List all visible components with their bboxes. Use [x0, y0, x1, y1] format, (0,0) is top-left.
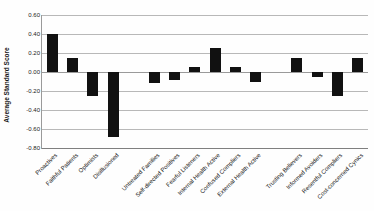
bar-informed-avoiders [312, 72, 323, 77]
x-tick-label: Informed Avoiders [285, 152, 323, 190]
y-tick-label: 0.20 [10, 50, 40, 56]
bar-trusting-believers [291, 58, 302, 72]
bar-proactives [47, 34, 58, 72]
gridline [42, 129, 368, 130]
y-tick-label: 0.60 [10, 12, 40, 18]
bar-optimists [87, 72, 98, 96]
bar-external-health-active [250, 72, 261, 82]
y-tick-label: -0.60 [10, 126, 40, 132]
bar-internal-health-active [210, 48, 221, 72]
gridline [42, 148, 368, 149]
y-tick-label: 0.40 [10, 31, 40, 37]
bar-confused-compliers [230, 67, 241, 72]
bar-resentful-compliers [332, 72, 343, 96]
y-tick-label: -0.80 [10, 145, 40, 151]
bar-fearful-listeners [189, 67, 200, 72]
bar-chart-figure: Average Standard Score 0.600.400.200.00-… [0, 0, 374, 211]
y-tick-label: -0.40 [10, 107, 40, 113]
x-tick-label: External Health Active [216, 152, 262, 198]
y-axis-title: Average Standard Score [3, 47, 10, 122]
gridline [42, 34, 368, 35]
bar-self-directed-positives [169, 72, 180, 80]
bar-faithful-patients [67, 58, 78, 72]
x-tick-label: Trusting Believers [265, 152, 303, 190]
bar-cost-concerned-cynics [352, 58, 363, 72]
gridline [42, 110, 368, 111]
gridline [42, 53, 368, 54]
y-tick-label: -0.20 [10, 88, 40, 94]
x-tick-label: Untreated Families [120, 152, 160, 192]
gridline [42, 15, 368, 16]
y-tick-label: 0.00 [10, 69, 40, 75]
plot-area [42, 15, 368, 148]
bar-untreated-families [149, 72, 160, 83]
bar-disillusioned [108, 72, 119, 137]
